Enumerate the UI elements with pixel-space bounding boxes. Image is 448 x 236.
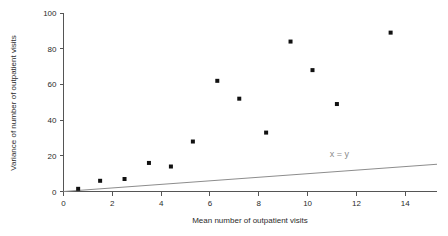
scatter-point [237,97,241,101]
scatter-point [289,40,293,44]
x-axis-title: Mean number of outpatient visits [192,216,308,225]
y-axis: 020406080100 [43,9,63,197]
scatter-point [147,161,151,165]
scatter-point [264,131,268,135]
x-axis-ticks [64,192,406,196]
scatter-point [123,177,127,181]
y-tick-label: 60 [48,80,57,89]
chart-canvas: 020406080100 02468101214 x = y Mean numb… [0,0,448,236]
y-tick-label: 100 [43,9,57,18]
x-equals-y-reference-line [64,164,438,191]
scatter-plot-figure: 020406080100 02468101214 x = y Mean numb… [0,0,448,236]
scatter-point [98,179,102,183]
x-tick-label: 12 [352,199,361,208]
scatter-point [76,187,80,191]
scatter-data-points [76,31,392,191]
y-tick-label: 0 [52,188,57,197]
scatter-point [215,79,219,83]
x-tick-label: 0 [61,199,66,208]
scatter-point [335,102,339,106]
x-equals-y-annotation-label: x = y [330,149,350,159]
x-tick-label: 14 [401,199,410,208]
y-axis-title: Variance of number of outpatient visits [9,35,18,170]
y-tick-label: 20 [48,152,57,161]
x-tick-label: 8 [257,199,262,208]
y-tick-label: 40 [48,116,57,125]
y-axis-ticks [60,13,64,192]
scatter-point [389,31,393,35]
scatter-point [169,165,173,169]
x-tick-label: 6 [208,199,213,208]
x-tick-label: 2 [110,199,115,208]
scatter-point [191,140,195,144]
y-tick-label: 80 [48,45,57,54]
x-tick-label: 4 [159,199,164,208]
x-axis: 02468101214 [61,192,437,208]
x-axis-tick-labels: 02468101214 [61,199,410,208]
y-axis-tick-labels: 020406080100 [43,9,57,197]
x-tick-label: 10 [303,199,312,208]
scatter-point [311,68,315,72]
